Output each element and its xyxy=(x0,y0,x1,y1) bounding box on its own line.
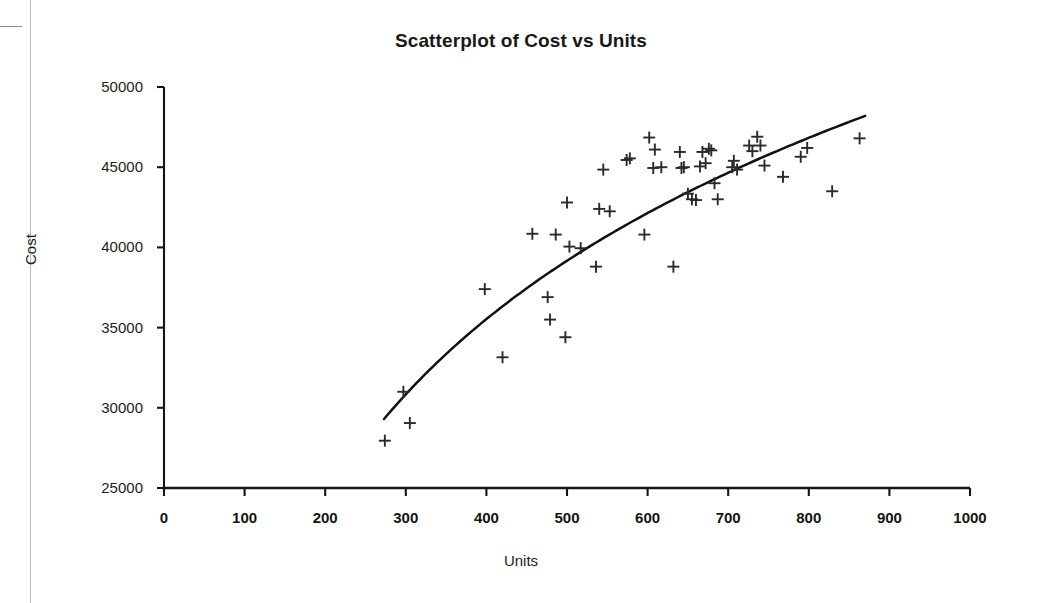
scatter-point xyxy=(649,144,661,156)
scatter-point xyxy=(559,331,571,343)
scatter-point xyxy=(694,160,706,172)
scatter-point xyxy=(703,143,715,155)
scatter-point xyxy=(621,154,633,166)
plot-graphics xyxy=(0,0,1042,603)
scatter-point xyxy=(746,145,758,157)
scatter-point xyxy=(700,157,712,169)
scatter-point xyxy=(404,417,416,429)
scatter-point xyxy=(655,161,667,173)
scatter-point xyxy=(777,171,789,183)
data-points xyxy=(379,131,866,447)
scatter-point xyxy=(479,283,491,295)
scatterplot-chart: Scatterplot of Cost vs Units Cost Units … xyxy=(0,0,1042,603)
scatter-point xyxy=(708,177,720,189)
scatter-point xyxy=(674,146,686,158)
scatter-point xyxy=(550,229,562,241)
scatter-point xyxy=(696,146,708,158)
scatter-point xyxy=(751,131,763,143)
scatter-point xyxy=(597,164,609,176)
scatter-point xyxy=(854,132,866,144)
scatter-point xyxy=(678,161,690,173)
scatter-point xyxy=(705,144,717,156)
scatter-point xyxy=(754,140,766,152)
scatter-point xyxy=(743,140,755,152)
scatter-point xyxy=(758,160,770,172)
scatter-point xyxy=(561,196,573,208)
scatter-point xyxy=(379,435,391,447)
axes xyxy=(157,87,970,496)
scatter-point xyxy=(526,228,538,240)
scatter-point xyxy=(638,229,650,241)
page-canvas: Scatterplot of Cost vs Units Cost Units … xyxy=(0,0,1042,603)
scatter-point xyxy=(590,261,602,273)
scatter-point xyxy=(624,152,636,164)
scatter-point xyxy=(542,291,554,303)
scatter-point xyxy=(575,242,587,254)
scatter-point xyxy=(643,132,655,144)
trendline xyxy=(384,116,865,419)
scatter-point xyxy=(795,151,807,163)
scatter-point xyxy=(563,241,575,253)
scatter-point xyxy=(667,261,679,273)
scatter-point xyxy=(593,203,605,215)
scatter-point xyxy=(712,193,724,205)
scatter-point xyxy=(728,155,740,167)
scatter-point xyxy=(497,351,509,363)
scatter-point xyxy=(397,386,409,398)
scatter-point xyxy=(826,185,838,197)
scatter-point xyxy=(801,142,813,154)
scatter-point xyxy=(544,314,556,326)
scatter-point xyxy=(604,205,616,217)
